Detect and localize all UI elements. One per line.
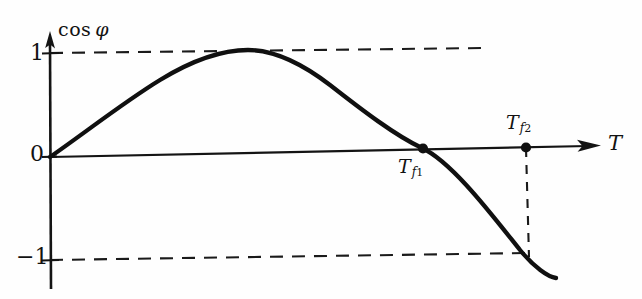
tf2-sub-index: 2 — [524, 122, 531, 135]
tf2-base: T — [506, 111, 519, 133]
tf2-subscript: f2 — [519, 121, 531, 135]
tf1-sub-index: 1 — [416, 166, 423, 179]
figure-container: cosφ 1 0 −1 T Tf1 Tf2 — [0, 0, 642, 299]
chart-canvas — [0, 0, 642, 299]
reference-line-cos-phi-minus-one — [50, 253, 529, 260]
curve-cos-phi — [50, 50, 556, 278]
data-point-tf1 — [418, 143, 428, 153]
reference-line-tf2-dropline — [526, 148, 529, 257]
y-axis-title: cosφ — [58, 20, 109, 39]
y-tick-label-zero: 0 — [30, 143, 44, 165]
y-axis-title-main: cos — [58, 18, 91, 40]
y-tick-one — [42, 53, 59, 54]
x-axis-line — [50, 146, 588, 157]
y-axis-title-symbol: φ — [91, 18, 109, 40]
y-tick-label-one: 1 — [30, 42, 44, 64]
tf1-subscript: f1 — [411, 165, 423, 179]
y-tick-label-negative-one: −1 — [16, 246, 48, 268]
data-point-label-tf2: Tf2 — [506, 113, 531, 134]
y-axis-line — [50, 44, 51, 289]
data-point-tf2 — [521, 142, 531, 152]
x-axis-title: T — [608, 133, 622, 154]
data-point-label-tf1: Tf1 — [398, 157, 423, 178]
tf1-base: T — [398, 155, 411, 177]
